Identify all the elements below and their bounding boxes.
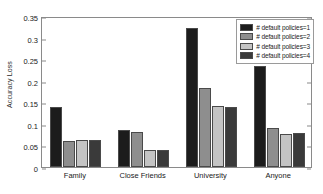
y-axis-tick-mark	[42, 169, 46, 170]
x-axis-tick-label: Family	[64, 171, 86, 180]
bar	[89, 140, 101, 167]
legend-color-swatch	[240, 24, 253, 31]
y-axis-tick-label: 0.2	[28, 78, 42, 87]
legend-item: # default policies=2	[240, 32, 310, 41]
legend-color-swatch	[240, 33, 253, 40]
bar	[225, 107, 237, 167]
legend-item-label: # default policies=2	[256, 33, 310, 40]
bar-group	[42, 18, 110, 167]
bar	[76, 140, 88, 167]
x-axis-tick-label: University	[194, 171, 227, 180]
y-axis-title: Accuracy Loss	[2, 0, 16, 168]
legend-color-swatch	[240, 52, 253, 59]
legend-color-swatch	[240, 43, 253, 50]
bar	[118, 130, 130, 167]
bar-group	[178, 18, 246, 167]
y-axis-tick-label: 0.05	[23, 143, 42, 152]
legend-item: # default policies=4	[240, 51, 310, 60]
bar	[199, 88, 211, 167]
bar	[157, 150, 169, 167]
legend-item: # default policies=1	[240, 23, 310, 32]
y-axis-tick-label: 0	[34, 165, 42, 174]
legend-item: # default policies=3	[240, 42, 310, 51]
bar	[63, 141, 75, 167]
bar	[131, 132, 143, 167]
bar	[280, 134, 292, 167]
legend-item-label: # default policies=1	[256, 24, 310, 31]
bar-group	[110, 18, 178, 167]
bar	[254, 66, 266, 167]
x-axis-tick-label: Close Friends	[119, 171, 165, 180]
legend-item-label: # default policies=4	[256, 52, 310, 59]
y-axis-tick-label: 0.1	[28, 121, 42, 130]
bar	[186, 28, 198, 167]
y-axis-tick-label: 0.35	[23, 14, 42, 23]
bar	[267, 128, 279, 167]
x-axis-tick-label: Anyone	[265, 171, 290, 180]
bar	[293, 133, 305, 167]
legend-item-label: # default policies=3	[256, 43, 310, 50]
chart-legend: # default policies=1# default policies=2…	[236, 19, 314, 64]
bar	[144, 150, 156, 167]
y-axis-tick-label: 0.25	[23, 57, 42, 66]
y-axis-tick-mark	[307, 169, 311, 170]
y-axis-title-text: Accuracy Loss	[6, 61, 13, 108]
y-axis-tick-label: 0.15	[23, 100, 42, 109]
y-axis-tick-label: 0.3	[28, 35, 42, 44]
bar	[50, 107, 62, 167]
bar-chart-figure: Accuracy Loss 00.050.10.150.20.250.30.35…	[0, 0, 323, 194]
bar	[212, 106, 224, 167]
